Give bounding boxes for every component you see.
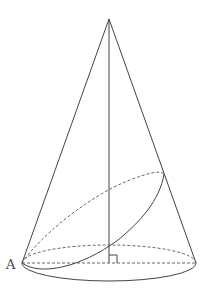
base-ellipse-front	[22, 263, 196, 281]
cone-diagram	[0, 0, 211, 300]
oblique-section-front	[22, 174, 164, 269]
right-slant-edge	[109, 19, 196, 263]
point-label-a: A	[6, 258, 15, 271]
left-slant-edge	[22, 19, 109, 263]
oblique-section-back	[22, 172, 164, 263]
right-angle-mark	[109, 255, 117, 263]
